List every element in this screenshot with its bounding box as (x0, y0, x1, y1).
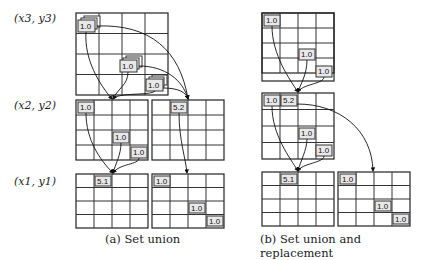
svg-text:1.0: 1.0 (80, 22, 92, 31)
svg-text:1.0: 1.0 (80, 103, 92, 112)
svg-text:1.0: 1.0 (301, 129, 313, 138)
svg-text:5.1: 5.1 (283, 175, 295, 184)
caption-a: (a) Set union (105, 232, 180, 246)
panel-a-level2-left-grid: 1.0 1.0 1.0 (76, 100, 148, 160)
svg-text:1.0: 1.0 (266, 16, 278, 25)
panel-a-level1-left-grid: 5.1 (76, 174, 148, 228)
panel-a-level2-right-grid: 5.2 (152, 100, 224, 160)
panel-b-level2-grid: 1.0 5.2 1.0 1.0 (262, 93, 334, 159)
svg-text:1.0: 1.0 (148, 81, 160, 90)
svg-text:1.0: 1.0 (266, 96, 278, 105)
svg-text:5.1: 5.1 (97, 177, 109, 186)
svg-text:1.0: 1.0 (318, 67, 330, 76)
svg-text:1.0: 1.0 (342, 175, 354, 184)
svg-text:1.0: 1.0 (209, 217, 221, 226)
svg-text:1.0: 1.0 (156, 177, 168, 186)
svg-text:1.0: 1.0 (301, 50, 313, 59)
svg-text:1.0: 1.0 (395, 215, 407, 224)
svg-text:1.0: 1.0 (191, 204, 203, 213)
svg-text:1.0: 1.0 (115, 133, 127, 142)
caption-b: (b) Set union and replacement (260, 232, 431, 260)
panel-b-level1-left-grid: 5.1 (262, 172, 334, 226)
svg-text:1.0: 1.0 (133, 148, 145, 157)
svg-text:5.2: 5.2 (283, 96, 295, 105)
panel-a-level3-grid: 1.0 1.0 1.0 (76, 13, 168, 95)
svg-text:1.0: 1.0 (122, 62, 134, 71)
panel-a-level1-right-grid: 1.0 1.0 1.0 (152, 174, 224, 228)
panel-b-level1-right-grid: 1.0 1.0 1.0 (338, 172, 410, 226)
svg-text:1.0: 1.0 (318, 146, 330, 155)
svg-text:5.2: 5.2 (173, 103, 185, 112)
panel-b-level3-grid: 1.0 1.0 1.0 (262, 13, 334, 81)
svg-text:1.0: 1.0 (377, 202, 389, 211)
